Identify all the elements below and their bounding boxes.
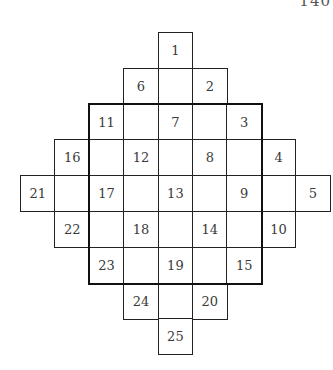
grid-cell-blank <box>123 247 159 284</box>
grid-cell-25: 25 <box>158 318 194 355</box>
grid-cell-6: 6 <box>123 68 159 105</box>
grid-cell-blank <box>192 247 228 284</box>
grid-cell-16: 16 <box>54 139 90 176</box>
diamond-number-grid: 1621173161284211713952218141023191524202… <box>0 0 333 370</box>
grid-cell-24: 24 <box>123 283 159 320</box>
grid-cell-11: 11 <box>89 104 125 141</box>
grid-cell-blank <box>226 211 262 248</box>
grid-cell-blank <box>158 139 194 176</box>
grid-cell-17: 17 <box>89 175 125 212</box>
grid-cell-21: 21 <box>20 175 56 212</box>
grid-cell-blank <box>123 175 159 212</box>
grid-cell-19: 19 <box>158 247 194 284</box>
grid-cell-blank <box>158 68 194 105</box>
grid-cell-12: 12 <box>123 139 159 176</box>
grid-cell-4: 4 <box>261 139 297 176</box>
grid-cell-15: 15 <box>226 247 262 284</box>
grid-cell-20: 20 <box>192 283 228 320</box>
grid-cell-blank <box>261 175 297 212</box>
grid-cell-13: 13 <box>158 175 194 212</box>
grid-cell-18: 18 <box>123 211 159 248</box>
grid-cell-5: 5 <box>295 175 331 212</box>
grid-cell-blank <box>123 104 159 141</box>
grid-cell-10: 10 <box>261 211 297 248</box>
grid-cell-3: 3 <box>226 104 262 141</box>
grid-cell-blank <box>158 283 194 320</box>
grid-cell-8: 8 <box>192 139 228 176</box>
grid-cell-blank <box>158 211 194 248</box>
grid-cell-blank <box>192 175 228 212</box>
grid-cell-blank <box>54 175 90 212</box>
grid-cell-9: 9 <box>226 175 262 212</box>
grid-cell-2: 2 <box>192 68 228 105</box>
grid-cell-7: 7 <box>158 104 194 141</box>
grid-cell-blank <box>192 104 228 141</box>
grid-cell-blank <box>89 211 125 248</box>
grid-cell-14: 14 <box>192 211 228 248</box>
grid-cell-1: 1 <box>158 32 194 69</box>
grid-cell-23: 23 <box>89 247 125 284</box>
grid-cell-blank <box>89 139 125 176</box>
grid-cell-22: 22 <box>54 211 90 248</box>
grid-cell-blank <box>226 139 262 176</box>
